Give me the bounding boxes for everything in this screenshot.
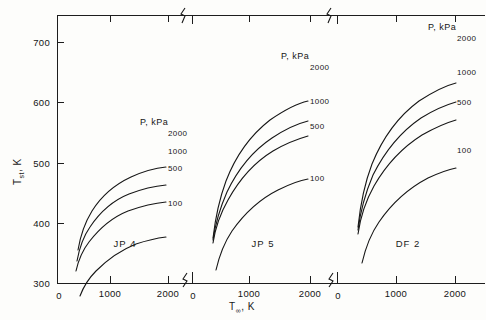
- curve-jp5-1000: [213, 121, 308, 240]
- curve-label-df2-500: 500: [457, 98, 472, 107]
- legend-header-df2: P, kPa: [428, 22, 456, 32]
- curve-label-jp4-500: 500: [168, 164, 183, 173]
- panel-label-df2: DF 2: [396, 238, 421, 249]
- curve-label-jp5-1000: 1000: [310, 97, 329, 106]
- curve-label-jp4-1000: 1000: [168, 147, 187, 156]
- curve-label-jp5-2000: 2000: [310, 63, 329, 72]
- curve-layer: [0, 0, 486, 320]
- curve-label-jp4-2000: 2000: [168, 129, 187, 138]
- panel-label-jp5: JP 5: [252, 238, 275, 249]
- curve-label-df2-2000: 2000: [457, 34, 476, 43]
- curve-df2-2000: [358, 83, 456, 227]
- curve-jp5-500: [213, 136, 308, 243]
- curve-label-df2-100: 100: [457, 146, 472, 155]
- curve-df2-1000: [358, 102, 456, 230]
- curve-label-df2-1000: 1000: [457, 68, 476, 77]
- curve-jp5-2000: [213, 101, 308, 238]
- curve-jp5-100: [216, 179, 308, 270]
- figure-root: 700 600 500 400 300 Tst, K 1000 2000 0 0…: [0, 0, 486, 320]
- curve-jp4-1000: [77, 185, 166, 261]
- legend-header-jp5: P, kPa: [281, 51, 309, 61]
- curve-label-jp4-100: 100: [168, 199, 183, 208]
- curve-label-jp5-500: 500: [310, 122, 325, 131]
- legend-header-jp4: P, kPa: [140, 117, 168, 127]
- curve-label-jp5-100: 100: [310, 174, 325, 183]
- panel-label-jp4: JP 4: [114, 238, 137, 249]
- curve-jp4-500: [76, 202, 166, 271]
